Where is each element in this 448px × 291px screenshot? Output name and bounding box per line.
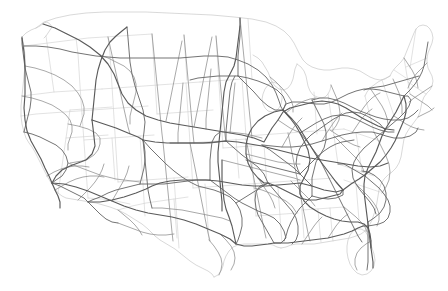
map-figure [0, 0, 448, 291]
us-highway-map [0, 0, 448, 291]
